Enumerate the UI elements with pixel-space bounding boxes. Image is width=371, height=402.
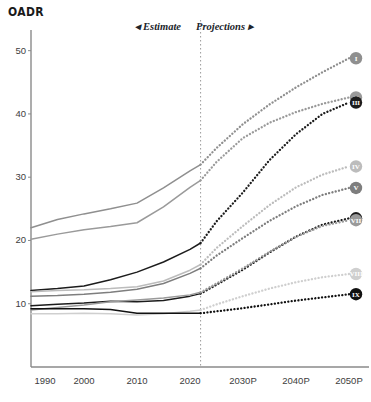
x-axis-tick: 2050P xyxy=(321,375,371,386)
series-line-historical xyxy=(31,309,201,313)
series-i xyxy=(31,58,349,228)
series-line-historical xyxy=(31,243,201,290)
marker-label: IX xyxy=(352,291,360,299)
x-axis-tick: 2040P xyxy=(268,375,324,386)
line-chart-plot: IIIIIIIVVVIVIIVIIIIX xyxy=(0,0,371,402)
chart-container: OADR ◂ Estimate Projections ▸ IIIIIIIVVV… xyxy=(0,0,371,402)
series-marker-iv[interactable]: IV xyxy=(350,160,362,172)
series-v xyxy=(31,188,349,296)
series-line-projection xyxy=(201,97,349,180)
series-marker-viii[interactable]: VIII xyxy=(349,268,363,280)
series-iii xyxy=(31,103,349,291)
marker-label: III xyxy=(352,99,360,107)
marker-label: VII xyxy=(351,217,362,225)
series-line-projection xyxy=(201,218,349,293)
y-axis-tick: 50 xyxy=(2,45,26,56)
series-marker-ix[interactable]: IX xyxy=(350,288,362,300)
marker-label: V xyxy=(353,184,358,192)
series-marker-v[interactable]: V xyxy=(350,182,362,194)
y-axis-tick: 30 xyxy=(2,171,26,182)
x-axis-tick: 2000 xyxy=(56,375,112,386)
y-axis-tick: 40 xyxy=(2,108,26,119)
series-line-historical xyxy=(31,268,201,296)
series-line-historical xyxy=(31,180,201,239)
y-axis-tick: 20 xyxy=(2,234,26,245)
x-axis-tick: 2010 xyxy=(109,375,165,386)
series-marker-vii[interactable]: VII xyxy=(350,214,362,226)
series-vi xyxy=(31,218,349,305)
series-line-historical xyxy=(31,165,201,228)
marker-label: VIII xyxy=(349,270,363,278)
marker-label: I xyxy=(355,55,358,63)
series-group: IIIIIIIVVVIVIIVIIIIX xyxy=(31,52,363,315)
series-marker-iii[interactable]: III xyxy=(350,96,362,108)
series-line-projection xyxy=(201,188,349,268)
y-axis-tick: 10 xyxy=(2,298,26,309)
series-ii xyxy=(31,97,349,239)
series-marker-i[interactable]: I xyxy=(350,52,362,64)
x-axis-tick: 2020 xyxy=(162,375,218,386)
x-axis-tick: 2030P xyxy=(215,375,271,386)
series-line-projection xyxy=(201,220,349,292)
marker-label: IV xyxy=(352,163,360,171)
series-line-projection xyxy=(201,294,349,313)
